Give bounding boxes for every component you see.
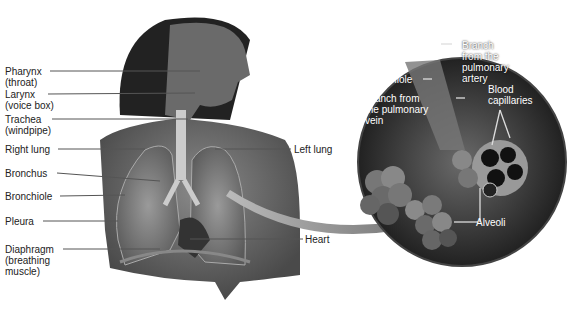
label-bronchus: Bronchus bbox=[5, 168, 47, 179]
label-right-lung: Right lung bbox=[5, 144, 50, 155]
label-pulmonary-vein: Branch from the pulmonary vein bbox=[365, 93, 428, 126]
label-diaphragm: Diaphragm (breathing muscle) bbox=[5, 244, 54, 277]
label-pleura: Pleura bbox=[5, 216, 34, 227]
label-pharynx: Pharynx (throat) bbox=[5, 66, 42, 88]
label-trachea: Trachea (windpipe) bbox=[5, 114, 51, 136]
label-larynx: Larynx (voice box) bbox=[5, 89, 54, 111]
label-pulmonary-artery: Branch from the pulmonary artery bbox=[462, 40, 509, 84]
trachea bbox=[176, 110, 186, 180]
label-blood-capillaries: Blood capillaries bbox=[488, 84, 532, 106]
label-bronchiole: Bronchiole bbox=[5, 191, 52, 202]
label-inset-bronchiole: Bronchiole bbox=[365, 74, 412, 85]
label-heart: Heart bbox=[305, 234, 329, 245]
label-left-lung: Left lung bbox=[294, 144, 332, 155]
label-alveoli: Alveoli bbox=[476, 217, 505, 228]
